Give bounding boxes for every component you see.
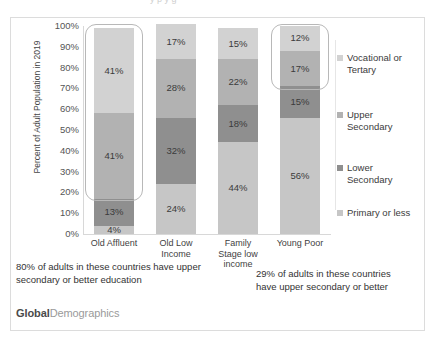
bar-segment-label: 18%	[228, 119, 247, 129]
y-axis-tick-label: 70%	[60, 83, 79, 93]
legend-swatch-icon	[337, 210, 343, 216]
bar-segment[interactable]: 12%	[280, 26, 320, 51]
y-axis-tick-label: 20%	[60, 187, 79, 197]
bar-segment-label: 56%	[290, 171, 309, 181]
legend-item-label: Primary or less	[347, 207, 410, 219]
legend-swatch-icon	[337, 112, 343, 118]
legend-item[interactable]: LowerSecondary	[337, 162, 429, 185]
bar-segment[interactable]: 13%	[94, 199, 134, 226]
y-axis-tick-label: 60%	[60, 104, 79, 114]
chart-frame: Percent of Adult Population in 2019 100%…	[10, 17, 425, 331]
bar-segment[interactable]: 44%	[218, 142, 258, 234]
bar-segment[interactable]: 18%	[218, 105, 258, 142]
bar-segment[interactable]: 56%	[280, 118, 320, 234]
bar-segment-label: 17%	[166, 37, 185, 47]
bar-segment-label: 12%	[290, 33, 309, 43]
bar-column[interactable]: 56%15%17%12%Young Poor	[269, 26, 331, 234]
bar-segment[interactable]: 41%	[94, 113, 134, 198]
annotation-right: 29% of adults in these countries have up…	[256, 268, 406, 293]
watermark-bold: Global	[16, 307, 50, 319]
bar-stack: 4%13%41%41%	[94, 26, 134, 234]
legend-divider	[335, 40, 336, 210]
bar-segment-label: 28%	[166, 83, 185, 93]
bar-column[interactable]: 44%18%22%15%FamilyStage lowincome	[207, 26, 269, 234]
bar-stack: 56%15%17%12%	[280, 26, 320, 234]
legend-item-label: UpperSecondary	[347, 109, 392, 132]
annotation-left: 80% of adults in these countries have up…	[16, 261, 201, 286]
bar-stack: 44%18%22%15%	[218, 26, 258, 234]
legend-item[interactable]: UpperSecondary	[337, 109, 429, 132]
bar-segment[interactable]: 32%	[156, 118, 196, 185]
bar-segment-label: 13%	[104, 207, 123, 217]
bar-segment-label: 17%	[290, 64, 309, 74]
legend-item-label: Vocational orTertary	[347, 52, 402, 75]
legend-swatch-icon	[337, 165, 343, 171]
bar-segment[interactable]: 15%	[218, 28, 258, 59]
bar-segment[interactable]: 4%	[94, 226, 134, 234]
y-axis-ticks: 100%90%80%70%60%50%40%30%20%10%0%	[37, 26, 81, 234]
bar-segment[interactable]: 28%	[156, 59, 196, 117]
bar-segment-label: 41%	[104, 66, 123, 76]
bar-segment[interactable]: 24%	[156, 184, 196, 234]
bar-segment-label: 44%	[228, 183, 247, 193]
bar-segment[interactable]: 17%	[156, 24, 196, 59]
top-clipped-header: y p y g	[0, 0, 442, 12]
legend-swatch-icon	[337, 55, 343, 61]
y-axis-tick-label: 40%	[60, 146, 79, 156]
bar-segment[interactable]: 41%	[94, 28, 134, 113]
y-axis-tick-label: 50%	[60, 125, 79, 135]
bar-segment-label: 4%	[107, 225, 121, 235]
y-axis-tick-label: 100%	[55, 21, 79, 31]
watermark-light: Demographics	[50, 307, 120, 319]
legend-item[interactable]: Primary or less	[337, 207, 429, 219]
watermark: GlobalDemographics	[16, 307, 119, 319]
x-axis-category-label: Young Poor	[263, 238, 337, 249]
y-axis-tick-label: 90%	[60, 42, 79, 52]
bar-segment-label: 22%	[228, 77, 247, 87]
bar-columns: 4%13%41%41%Old Affluent24%32%28%17%Old L…	[83, 26, 333, 234]
y-axis-tick-label: 80%	[60, 63, 79, 73]
bar-column[interactable]: 4%13%41%41%Old Affluent	[83, 26, 145, 234]
y-axis-tick-label: 10%	[60, 208, 79, 218]
y-axis-tick-label: 30%	[60, 167, 79, 177]
bar-stack: 24%32%28%17%	[156, 26, 196, 234]
legend-item[interactable]: Vocational orTertary	[337, 52, 429, 75]
legend-item-label: LowerSecondary	[347, 162, 392, 185]
bar-segment[interactable]: 15%	[280, 86, 320, 117]
bar-segment[interactable]: 17%	[280, 51, 320, 86]
bar-segment-label: 15%	[228, 39, 247, 49]
bar-segment-label: 24%	[166, 204, 185, 214]
bar-segment-label: 15%	[290, 97, 309, 107]
bar-segment-label: 41%	[104, 151, 123, 161]
bar-segment[interactable]: 22%	[218, 59, 258, 105]
bar-column[interactable]: 24%32%28%17%Old LowIncome	[145, 26, 207, 234]
top-clipped-header-text: y p y g	[150, 0, 177, 4]
bar-segment-label: 32%	[166, 146, 185, 156]
